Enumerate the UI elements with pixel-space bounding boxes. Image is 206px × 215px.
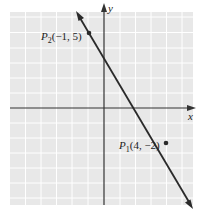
point-p2-prefix: P (41, 30, 48, 42)
point-p1-label: P1(4, −2) (119, 139, 160, 154)
point-p1 (164, 141, 169, 146)
point-p2 (87, 31, 92, 36)
point-p1-prefix: P (119, 139, 126, 151)
point-p1-coords: (4, −2) (130, 139, 160, 151)
y-axis-label: y (108, 2, 113, 14)
x-axis-label: x (188, 110, 193, 122)
point-p2-coords: (−1, 5) (52, 30, 82, 42)
y-axis-arrow-icon (101, 3, 107, 12)
point-p2-label: P2(−1, 5) (41, 30, 82, 45)
coordinate-plane (0, 0, 206, 215)
